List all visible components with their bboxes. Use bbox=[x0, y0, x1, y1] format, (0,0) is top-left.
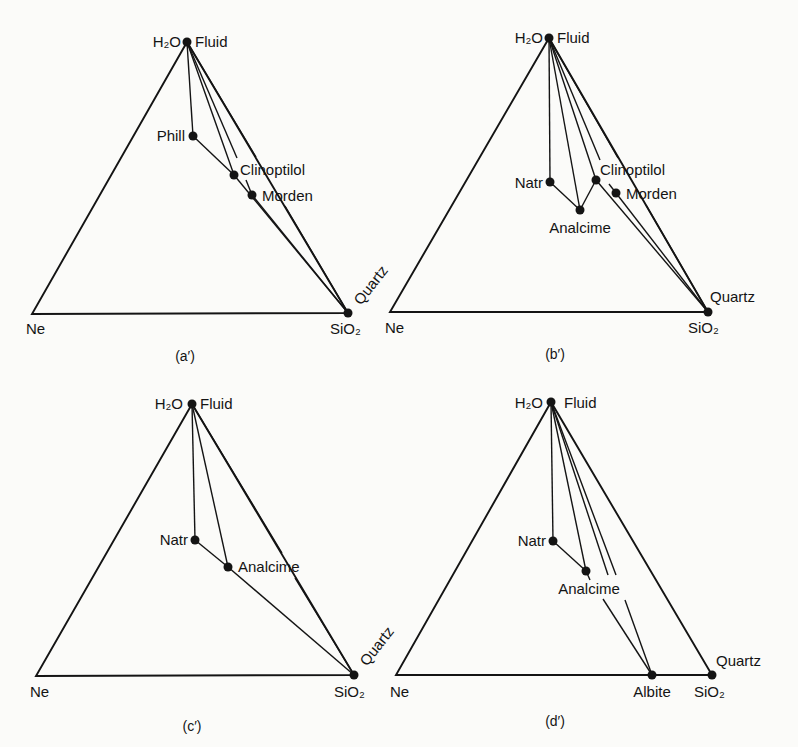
vertex-label-ne: Ne bbox=[26, 320, 45, 337]
tie-line bbox=[603, 599, 652, 675]
fluid-point bbox=[188, 400, 197, 409]
panel-a: H₂O Fluid Phill Clinoptilol Morden Quart… bbox=[26, 33, 391, 364]
fluid-point bbox=[547, 398, 556, 407]
vertex-label-h2o: H₂O bbox=[515, 29, 543, 46]
phase-label-quartz: Quartz bbox=[350, 262, 391, 308]
vertex-label-ne: Ne bbox=[385, 319, 404, 336]
phase-label-quartz: Quartz bbox=[716, 652, 761, 669]
tie-line bbox=[295, 578, 354, 675]
phase-point-analcime bbox=[582, 567, 591, 576]
panel-caption: (b′) bbox=[545, 346, 565, 362]
vertex-label-sio2: SiO₂ bbox=[694, 683, 725, 700]
phase-point-analcime bbox=[576, 206, 585, 215]
tie-line bbox=[551, 402, 586, 571]
tie-line bbox=[616, 193, 708, 312]
vertex-label-fluid: Fluid bbox=[195, 33, 228, 50]
tie-line bbox=[551, 402, 553, 541]
vertex-label-sio2: SiO₂ bbox=[330, 320, 361, 337]
tie-line bbox=[551, 402, 616, 575]
phase-label-analcime: Analcime bbox=[549, 219, 611, 236]
phase-point-phill bbox=[189, 132, 198, 141]
vertex-label-ne: Ne bbox=[30, 683, 49, 700]
quartz-point bbox=[344, 309, 353, 318]
tie-line bbox=[192, 404, 282, 553]
phase-label-natr: Natr bbox=[160, 531, 188, 548]
vertex-label-h2o: H₂O bbox=[515, 394, 543, 411]
vertex-label-sio2: SiO₂ bbox=[334, 683, 365, 700]
panel-c: H₂O Fluid Natr Analcime Quartz Ne SiO₂ (… bbox=[30, 395, 397, 734]
vertex-label-fluid: Fluid bbox=[200, 395, 233, 412]
tie-line bbox=[192, 404, 195, 540]
phase-point-natr bbox=[191, 536, 200, 545]
quartz-point bbox=[708, 671, 717, 680]
tie-line bbox=[549, 38, 550, 182]
vertex-label-h2o: H₂O bbox=[155, 395, 183, 412]
vertex-label-fluid: Fluid bbox=[564, 394, 597, 411]
phase-label-morden: Morden bbox=[626, 185, 677, 202]
phase-point-albite bbox=[648, 671, 657, 680]
phase-label-analcime: Analcime bbox=[238, 558, 300, 575]
tie-line bbox=[625, 600, 652, 675]
phase-label-natr: Natr bbox=[515, 174, 543, 191]
quartz-point bbox=[704, 308, 713, 317]
phase-point-analcime bbox=[224, 563, 233, 572]
tie-line bbox=[187, 42, 237, 158]
phase-label-analcime: Analcime bbox=[558, 580, 620, 597]
phase-point-natr bbox=[546, 178, 555, 187]
phase-point-morden bbox=[248, 191, 257, 200]
panel-caption: (d′) bbox=[545, 713, 565, 729]
tie-line bbox=[549, 38, 596, 180]
quartz-point bbox=[350, 671, 359, 680]
tie-line bbox=[646, 205, 708, 312]
tie-line bbox=[228, 567, 354, 675]
phase-label-natr: Natr bbox=[518, 532, 546, 549]
phase-diagram-figure: H₂O Fluid Phill Clinoptilol Morden Quart… bbox=[0, 0, 798, 747]
vertex-label-ne: Ne bbox=[390, 683, 409, 700]
vertex-label-h2o: H₂O bbox=[153, 33, 181, 50]
phase-label-clinoptilol: Clinoptilol bbox=[240, 161, 305, 178]
tie-line bbox=[551, 402, 608, 575]
panel-b: H₂O Fluid Natr Analcime Clinoptilol Mord… bbox=[385, 29, 755, 362]
tie-line bbox=[549, 38, 600, 160]
tie-line bbox=[252, 195, 348, 313]
phase-label-albite: Albite bbox=[633, 683, 671, 700]
phase-label-quartz: Quartz bbox=[356, 623, 397, 669]
panel-caption: (c′) bbox=[183, 718, 202, 734]
phase-point-morden bbox=[612, 189, 621, 198]
phase-label-phill: Phill bbox=[157, 127, 185, 144]
vertex-label-fluid: Fluid bbox=[557, 29, 590, 46]
panel-caption: (a′) bbox=[175, 348, 195, 364]
phase-label-clinoptilol: Clinoptilol bbox=[600, 161, 665, 178]
phase-point-natr bbox=[549, 537, 558, 546]
phase-label-morden: Morden bbox=[262, 187, 313, 204]
fluid-point bbox=[183, 38, 192, 47]
tie-line bbox=[285, 206, 348, 313]
phase-point-clinoptilol bbox=[230, 171, 239, 180]
fluid-point bbox=[545, 34, 554, 43]
vertex-label-sio2: SiO₂ bbox=[688, 319, 719, 336]
phase-label-quartz: Quartz bbox=[710, 288, 755, 305]
panel-d: H₂O Fluid Natr Analcime Albite Quartz Ne… bbox=[390, 394, 761, 729]
tie-line bbox=[580, 180, 596, 210]
